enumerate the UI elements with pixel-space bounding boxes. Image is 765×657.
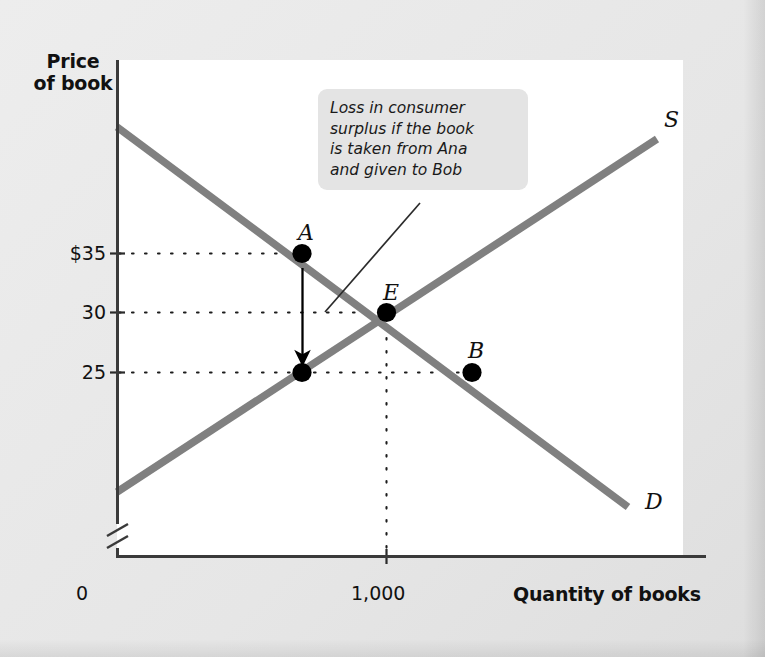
y-axis-title: Price of book [30,50,116,95]
data-point-B[interactable] [462,363,481,382]
origin-label: 0 [76,582,88,604]
y-tick-label-25: 25 [34,361,106,383]
data-point-E[interactable] [377,303,396,322]
y-tick-label-30: 30 [34,301,106,323]
axis-break-icon [107,524,128,548]
data-point-label-e: E [383,280,399,305]
annotation-line-2: surplus if the book [330,119,516,140]
demand-curve-label: D [645,489,663,514]
loss-annotation-callout: Loss in consumer surplus if the book is … [318,89,528,190]
annotation-line-3: is taken from Ana [330,139,516,160]
x-tick-label-1000: 1,000 [351,582,405,604]
callout-leader-line [325,203,420,312]
data-point-label-a: A [298,220,314,245]
x-axis-title: Quantity of books [513,583,701,605]
supply-curve-label: S [664,107,679,132]
figure-root: Price of book Quantity of books $35 30 2… [0,0,765,657]
annotation-line-1: Loss in consumer [330,98,516,119]
y-tick-label-35: $35 [34,242,106,264]
data-point-supply-25[interactable] [292,363,311,382]
y-axis-title-line-2: of book [30,72,116,94]
y-axis-title-line-1: Price [30,50,116,72]
annotation-line-4: and given to Bob [330,160,516,181]
data-point-A[interactable] [292,244,311,263]
data-point-label-b: B [468,338,484,363]
